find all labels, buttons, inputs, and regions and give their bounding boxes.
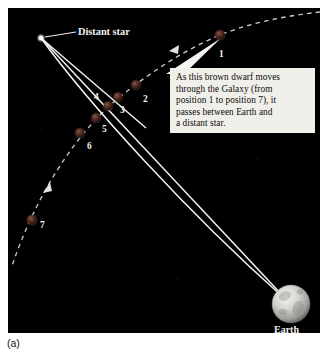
brown-dwarf-position-2	[131, 80, 142, 91]
callout-textbox: As this brown dwarf moves through the Ga…	[170, 68, 315, 133]
trajectory-arrow-lower	[43, 182, 52, 193]
callout-line-2: through the Galaxy (from	[176, 84, 310, 96]
trajectory-arrow-upper	[169, 45, 179, 54]
callout-line-1: As this brown dwarf moves	[176, 72, 310, 84]
figure-root: Distant star 1 2 3 4	[0, 0, 328, 357]
brown-dwarf-position-4	[103, 101, 113, 111]
figure-caption: (a)	[7, 337, 20, 349]
brown-dwarf-position-1	[214, 29, 225, 40]
brown-dwarf-label-1: 1	[219, 49, 224, 59]
brown-dwarf-position-6	[74, 127, 85, 138]
callout-line-4: passes between Earth and	[176, 107, 310, 119]
trajectory-path	[12, 12, 320, 266]
distant-star-leader-line	[45, 32, 76, 37]
brown-dwarf-position-5	[91, 113, 102, 124]
brown-dwarf-position-3	[113, 92, 123, 102]
callout-line-5: a distant star.	[176, 118, 310, 130]
distant-star	[36, 33, 45, 42]
brown-dwarf-label-7: 7	[40, 220, 45, 230]
sky-panel: Distant star 1 2 3 4	[8, 8, 320, 333]
brown-dwarf-label-5: 5	[102, 124, 107, 134]
brown-dwarf-position-7	[26, 214, 38, 226]
distant-star-label: Distant star	[78, 26, 130, 37]
brown-dwarf-label-3: 3	[120, 105, 125, 115]
callout-line-3: position 1 to position 7), it	[176, 95, 310, 107]
earth-globe	[272, 285, 310, 323]
diagram-canvas: Distant star 1 2 3 4	[8, 8, 320, 333]
brown-dwarf-label-2: 2	[143, 94, 148, 104]
earth-label: Earth	[274, 324, 299, 333]
brown-dwarf-label-6: 6	[87, 141, 92, 151]
brown-dwarf-label-4: 4	[94, 92, 99, 102]
